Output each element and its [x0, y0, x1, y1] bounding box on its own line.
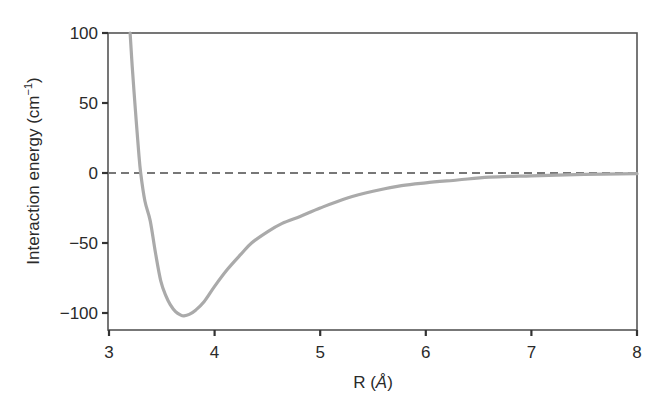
x-tick-label: 5 [315, 343, 324, 362]
x-tick-label: 4 [210, 343, 219, 362]
y-axis-label: Interaction energy (cm−1) [22, 77, 43, 264]
series-line [130, 33, 637, 316]
x-tick-label: 7 [527, 343, 536, 362]
y-axis-label-main: Interaction energy (cm [24, 96, 43, 265]
y-axis-label-superscript: −1 [22, 83, 34, 96]
x-tick-label: 8 [632, 343, 641, 362]
y-tick-label: 0 [89, 164, 98, 183]
x-axis-label-suffix: ) [387, 373, 393, 392]
x-axis-label-unit: Å [375, 373, 387, 392]
x-axis-label-prefix: R ( [353, 373, 376, 392]
plot-border [108, 33, 637, 330]
y-tick-label: −100 [60, 304, 98, 323]
y-tick-label: 50 [79, 94, 98, 113]
chart: 345678 100500−50−100 R (Å) Interaction e… [0, 0, 662, 411]
plot-frame [108, 33, 637, 330]
x-tick-label: 3 [104, 343, 113, 362]
y-axis-label-close: ) [24, 77, 43, 83]
y-axis-ticks: 100500−50−100 [60, 24, 108, 323]
energy-curve [130, 33, 637, 316]
y-tick-label: −50 [69, 234, 98, 253]
y-tick-label: 100 [70, 24, 98, 43]
x-tick-label: 6 [421, 343, 430, 362]
x-axis-label: R (Å) [353, 373, 393, 392]
x-axis-ticks: 345678 [104, 330, 641, 362]
